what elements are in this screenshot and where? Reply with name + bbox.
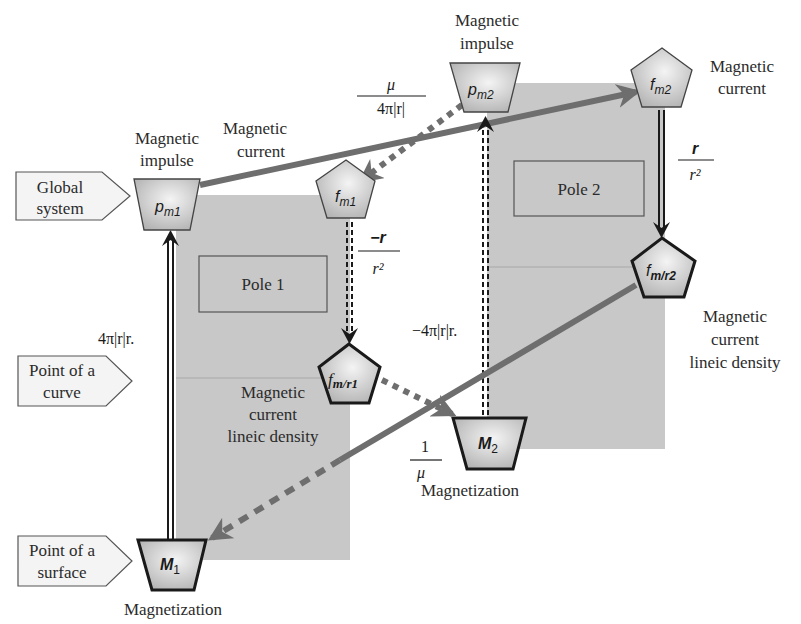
svg-text:μ: μ bbox=[416, 464, 425, 482]
svg-text:Global: Global bbox=[37, 178, 84, 197]
tag-point-of-a-curve: Point of a curve bbox=[18, 356, 132, 406]
svg-text:4π|r|: 4π|r| bbox=[377, 100, 405, 118]
magnetic-quantities-diagram: Pole 1 Pole 2 Global system Point of a c… bbox=[0, 0, 801, 624]
svg-text:Point of a: Point of a bbox=[29, 541, 96, 560]
svg-text:μ: μ bbox=[386, 76, 395, 94]
pm1-caption-2: impulse bbox=[140, 151, 194, 170]
M1-caption: Magnetization bbox=[124, 600, 223, 619]
fraction-mu-over-4pi-r: μ 4π|r| bbox=[357, 76, 426, 118]
M2-caption: Magnetization bbox=[421, 481, 520, 500]
fmr1-caption-2: current bbox=[249, 405, 297, 424]
current-label-1: Magnetic bbox=[223, 119, 288, 138]
current-label-2: current bbox=[237, 142, 285, 161]
svg-text:−r: −r bbox=[370, 229, 386, 246]
fraction-neg-r-over-r2: −r r² bbox=[358, 229, 400, 277]
node-fm2: fm2 bbox=[631, 48, 692, 107]
fm2-caption-1: Magnetic bbox=[710, 57, 775, 76]
svg-text:r²: r² bbox=[689, 166, 701, 183]
pole-1-label: Pole 1 bbox=[242, 275, 285, 294]
fmr2-caption-1: Magnetic bbox=[703, 307, 768, 326]
svg-text:Point of a: Point of a bbox=[29, 361, 96, 380]
pole-2-label: Pole 2 bbox=[558, 180, 601, 199]
fmr2-caption-3: lineic density bbox=[689, 353, 781, 372]
svg-text:r: r bbox=[692, 140, 699, 157]
node-M1: M1 bbox=[138, 540, 206, 590]
svg-text:1: 1 bbox=[421, 438, 429, 455]
fraction-r-over-r2: r r² bbox=[678, 140, 714, 183]
svg-text:r²: r² bbox=[372, 260, 384, 277]
fm2-caption-2: current bbox=[718, 79, 766, 98]
node-fm1: fm1 bbox=[316, 160, 375, 218]
fmr1-caption-1: Magnetic bbox=[241, 383, 306, 402]
fraction-1-over-mu: 1 μ bbox=[410, 438, 442, 482]
pm2-caption-2: impulse bbox=[460, 34, 514, 53]
svg-text:curve: curve bbox=[43, 383, 81, 402]
svg-text:surface: surface bbox=[37, 563, 86, 582]
pm2-caption-1: Magnetic bbox=[455, 11, 520, 30]
left-vertical-label: 4π|r|r. bbox=[98, 330, 134, 348]
node-pm1: pm1 bbox=[134, 179, 200, 230]
fmr2-caption-2: current bbox=[711, 330, 759, 349]
pm1-caption-1: Magnetic bbox=[135, 129, 200, 148]
tag-point-of-a-surface: Point of a surface bbox=[18, 536, 132, 586]
tag-global-system: Global system bbox=[16, 172, 130, 220]
svg-text:system: system bbox=[36, 199, 83, 218]
mid-vertical-label: −4π|r|r. bbox=[412, 322, 457, 340]
node-M2: M2 bbox=[453, 418, 526, 469]
fmr1-caption-3: lineic density bbox=[227, 427, 319, 446]
